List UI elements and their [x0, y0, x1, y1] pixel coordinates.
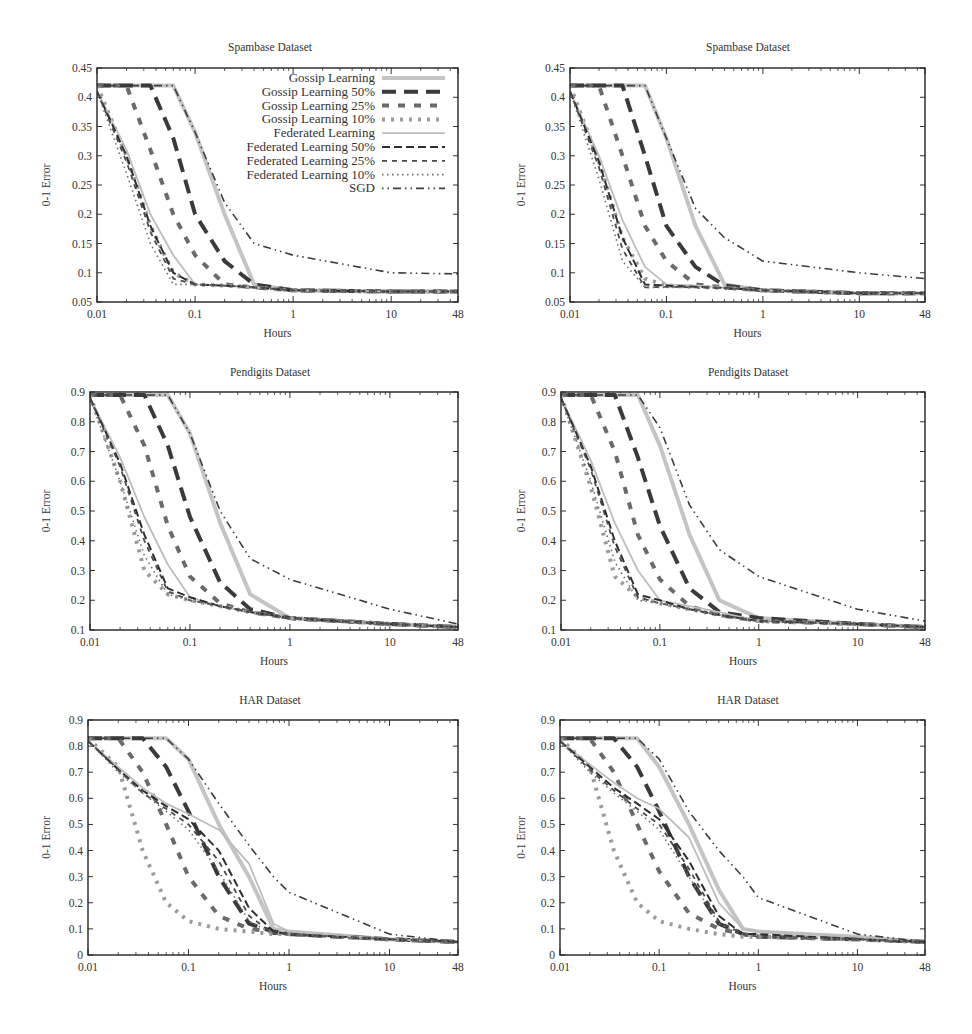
x-axis-label: Hours [263, 327, 292, 339]
x-tick-label: 1 [756, 636, 762, 648]
chart-panel-1: Spambase Dataset0.050.10.150.20.250.30.3… [40, 41, 464, 339]
chart-title: Spambase Dataset [228, 41, 313, 54]
y-tick-label: 0 [77, 949, 83, 961]
y-tick-label: 0.25 [72, 179, 92, 191]
plot-frame [88, 720, 458, 955]
x-axis-label: Hours [259, 980, 288, 992]
series-line-gossip-learning-50- [88, 738, 458, 942]
x-axis-label: Hours [260, 655, 289, 667]
x-tick-label: 0.1 [653, 636, 668, 648]
figure-svg: Spambase Dataset0.050.10.150.20.250.30.3… [0, 0, 972, 1034]
y-tick-label: 0.45 [72, 62, 92, 74]
series-line-sgd [560, 738, 925, 942]
y-tick-label: 0.8 [71, 416, 86, 428]
y-tick-label: 0 [549, 949, 555, 961]
chart-title: Pendigits Dataset [230, 366, 311, 379]
y-tick-label: 0.4 [541, 845, 556, 857]
y-tick-label: 0.4 [71, 535, 86, 547]
series-line-gossip-learning-50- [561, 395, 925, 627]
series-line-gossip-learning-10- [88, 738, 458, 942]
y-tick-label: 0.9 [69, 714, 84, 726]
y-tick-label: 0.4 [69, 845, 84, 857]
y-tick-label: 0.6 [71, 475, 86, 487]
series-line-sgd [561, 395, 925, 621]
series-line-federated-learning-25- [570, 91, 925, 293]
series-line-sgd [90, 395, 458, 624]
y-tick-label: 0.8 [541, 740, 556, 752]
x-tick-label: 48 [919, 636, 931, 648]
plot-frame [560, 720, 925, 955]
y-tick-label: 0.3 [541, 871, 556, 883]
y-tick-label: 0.2 [542, 594, 557, 606]
series-line-sgd [570, 86, 925, 279]
chart-panel-6: HAR Dataset00.10.20.30.40.50.60.70.80.90… [515, 694, 931, 992]
x-axis-label: Hours [729, 655, 758, 667]
x-axis-label: Hours [733, 327, 762, 339]
series-line-federated-learning-50- [90, 398, 458, 627]
y-tick-label: 0.35 [545, 121, 565, 133]
y-tick-label: 0.9 [71, 386, 86, 398]
y-tick-label: 0.3 [542, 565, 557, 577]
x-tick-label: 1 [755, 961, 761, 973]
series-line-federated-learning-25- [88, 741, 458, 942]
y-tick-label: 0.25 [545, 179, 565, 191]
x-tick-label: 1 [290, 308, 296, 320]
y-tick-label: 0.35 [72, 121, 92, 133]
y-tick-label: 0.8 [542, 416, 557, 428]
y-tick-label: 0.1 [542, 624, 557, 636]
x-tick-label: 10 [385, 308, 397, 320]
y-tick-label: 0.3 [78, 150, 93, 162]
chart-panel-2: Spambase Dataset0.050.10.150.20.250.30.3… [515, 41, 931, 339]
x-tick-label: 0.01 [550, 961, 570, 973]
chart-title: HAR Dataset [717, 694, 779, 706]
y-tick-label: 0.2 [551, 208, 566, 220]
series-line-federated-learning [570, 91, 925, 293]
plot-frame [561, 392, 925, 630]
x-tick-label: 0.1 [659, 308, 674, 320]
series-line-federated-learning-10- [570, 91, 925, 293]
y-tick-label: 0.5 [541, 818, 556, 830]
x-tick-label: 10 [384, 636, 396, 648]
x-axis-label: Hours [728, 980, 757, 992]
y-tick-label: 0.4 [542, 535, 557, 547]
x-tick-label: 0.1 [188, 308, 203, 320]
y-tick-label: 0.7 [71, 446, 86, 458]
legend-label: Gossip Learning [289, 70, 376, 85]
chart-title: Spambase Dataset [706, 41, 791, 54]
y-axis-label: 0-1 Error [40, 164, 52, 207]
x-tick-label: 48 [919, 961, 931, 973]
series-line-federated-learning-25- [561, 398, 925, 627]
y-tick-label: 0.7 [541, 766, 556, 778]
plot-frame [570, 68, 925, 302]
chart-title: HAR Dataset [239, 694, 301, 706]
x-tick-label: 0.1 [181, 961, 196, 973]
series-line-gossip-learning [560, 738, 925, 942]
y-tick-label: 0.6 [69, 792, 84, 804]
y-axis-label: 0-1 Error [40, 816, 52, 859]
series-line-gossip-learning-25- [570, 86, 925, 294]
x-tick-label: 0.1 [183, 636, 198, 648]
series-line-gossip-learning-25- [560, 738, 925, 942]
y-axis-label: 0-1 Error [515, 816, 527, 859]
series-line-federated-learning-10- [561, 398, 925, 627]
series-line-federated-learning-25- [90, 398, 458, 627]
y-tick-label: 0.7 [542, 446, 557, 458]
y-tick-label: 0.9 [542, 386, 557, 398]
y-tick-label: 0.2 [541, 897, 556, 909]
legend-label: Federated Learning [274, 125, 376, 140]
series-line-sgd [88, 738, 458, 942]
series-line-federated-learning [88, 741, 458, 942]
x-tick-label: 48 [452, 308, 464, 320]
y-tick-label: 0.45 [545, 62, 565, 74]
chart-title: Pendigits Dataset [708, 366, 789, 379]
legend-label: Federated Learning 10% [246, 167, 375, 182]
chart-panel-4: Pendigits Dataset0.10.20.30.40.50.60.70.… [515, 366, 931, 667]
legend-label: Federated Learning 50% [246, 139, 375, 154]
x-tick-label: 10 [852, 636, 864, 648]
series-line-federated-learning [90, 398, 458, 627]
series-line-gossip-learning [90, 395, 458, 627]
y-tick-label: 0.3 [71, 565, 86, 577]
y-tick-label: 0.1 [69, 923, 84, 935]
series-line-gossip-learning-25- [561, 395, 925, 627]
y-tick-label: 0.4 [78, 91, 93, 103]
